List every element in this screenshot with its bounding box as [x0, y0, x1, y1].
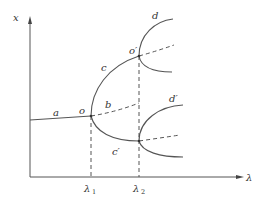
- label-o: o: [79, 105, 85, 116]
- label-d: d: [152, 10, 158, 21]
- x-axis-arrow-icon: [236, 175, 244, 179]
- x-axis-label: λ: [245, 172, 252, 183]
- svg-text:2: 2: [141, 188, 145, 196]
- branch-c-prime: [91, 116, 139, 141]
- branch-o-prime-unstable: [139, 45, 174, 56]
- label-c: c: [101, 62, 107, 73]
- branch-d-lower: [139, 56, 172, 72]
- branch-d-prime-lower: [139, 141, 183, 157]
- branch-c: [91, 56, 139, 116]
- branch-b: [91, 103, 139, 116]
- svg-text:λ: λ: [83, 183, 90, 194]
- label-o-prime: o′: [129, 45, 138, 56]
- label-a: a: [53, 107, 59, 118]
- tick-lambda1: λ 1: [83, 183, 96, 196]
- bifurcation-diagram: x λ λ 1 λ 2: [0, 0, 267, 206]
- point-o: [90, 115, 93, 118]
- label-d-prime: d′: [169, 93, 178, 104]
- branch-d-upper: [139, 19, 173, 56]
- svg-text:λ: λ: [132, 183, 139, 194]
- y-axis-arrow-icon: [28, 16, 32, 24]
- point-c-prime-bif: [138, 140, 141, 143]
- point-o-prime: [138, 55, 141, 58]
- branch-c-prime-unstable: [139, 135, 180, 141]
- svg-text:1: 1: [92, 188, 96, 196]
- branch-a: [30, 116, 91, 120]
- y-axis-label: x: [13, 12, 19, 23]
- label-c-prime: c′: [112, 146, 121, 157]
- label-b: b: [105, 99, 111, 110]
- tick-lambda2: λ 2: [132, 183, 145, 196]
